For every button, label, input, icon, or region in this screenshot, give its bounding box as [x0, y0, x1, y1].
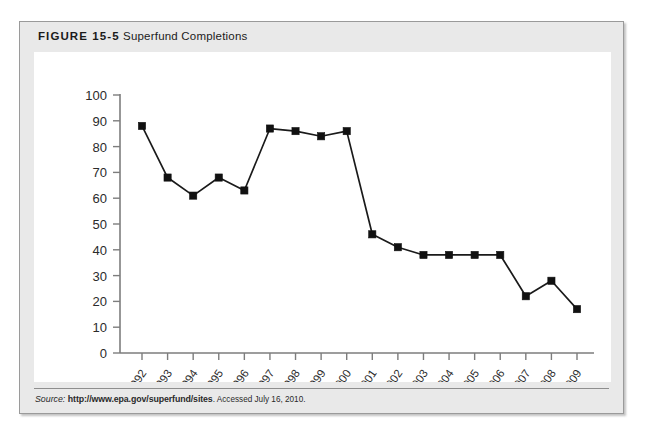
y-axis-tick-label: 80 [93, 140, 107, 155]
x-axis-tick-label: 1993 [150, 367, 175, 382]
x-axis-tick-label: 2006 [482, 367, 507, 382]
y-axis-tick-label: 10 [93, 320, 107, 335]
data-point-marker [343, 128, 350, 135]
x-axis-tick-label: 2009 [559, 367, 584, 382]
data-point-marker [548, 277, 555, 284]
x-axis-tick-label: 1999 [303, 367, 328, 382]
data-series-line [142, 126, 577, 309]
x-axis-tick-label: 2008 [534, 367, 559, 382]
figure-caption: FIGURE 15-5 Superfund Completions [38, 30, 247, 42]
x-axis-tick-label: 2005 [457, 367, 482, 382]
data-point-marker [190, 192, 197, 199]
data-point-marker [164, 174, 171, 181]
y-axis-tick-label: 40 [93, 243, 107, 258]
data-point-marker [573, 306, 580, 313]
x-axis-tick-label: 1998 [278, 367, 303, 382]
x-axis-tick-label: 2002 [380, 367, 405, 382]
y-axis-tick-label: 0 [100, 346, 107, 361]
data-point-marker [420, 251, 427, 258]
x-axis: 1992199319941995199619971998199920002001… [120, 353, 594, 382]
data-point-marker [215, 174, 222, 181]
x-axis-tick-label: 2007 [508, 367, 533, 382]
data-point-marker [241, 187, 248, 194]
superfund-completions-line-chart: 1009080706050403020100 19921993199419951… [34, 52, 611, 382]
data-point-marker [266, 125, 273, 132]
y-axis-tick-label: 70 [93, 165, 107, 180]
y-axis: 1009080706050403020100 [85, 88, 120, 361]
figure-number: FIGURE 15-5 [38, 30, 120, 42]
data-point-marker [138, 122, 145, 129]
y-axis-tick-label: 100 [85, 88, 107, 103]
x-axis-tick-label: 1992 [124, 367, 149, 382]
x-axis-tick-label: 2000 [329, 367, 354, 382]
source-note: Source: http://www.epa.gov/superfund/sit… [35, 394, 306, 404]
x-axis-tick-label: 1997 [252, 367, 277, 382]
footer-divider [34, 388, 609, 389]
y-axis-tick-label: 30 [93, 269, 107, 284]
data-point-marker [369, 231, 376, 238]
figure-header: FIGURE 15-5 Superfund Completions [20, 22, 623, 52]
data-point-markers [138, 122, 580, 312]
source-accessed: . Accessed July 16, 2010. [213, 395, 306, 404]
x-axis-tick-label: 1996 [226, 367, 251, 382]
y-axis-tick-label: 20 [93, 294, 107, 309]
y-axis-tick-label: 90 [93, 114, 107, 129]
data-point-marker [445, 251, 452, 258]
chart-plot-panel: 1009080706050403020100 19921993199419951… [34, 52, 611, 382]
figure-container: FIGURE 15-5 Superfund Completions 100908… [19, 21, 624, 414]
x-axis-tick-label: 2001 [354, 367, 379, 382]
data-point-marker [292, 128, 299, 135]
source-label: Source: [35, 394, 65, 404]
y-axis-tick-label: 60 [93, 191, 107, 206]
data-point-marker [497, 251, 504, 258]
data-point-marker [471, 251, 478, 258]
figure-title: Superfund Completions [123, 30, 247, 42]
x-axis-tick-label: 1994 [175, 367, 200, 382]
data-point-marker [522, 293, 529, 300]
source-url[interactable]: http://www.epa.gov/superfund/sites [68, 394, 213, 404]
x-axis-tick-label: 2004 [431, 367, 456, 382]
y-axis-tick-label: 50 [93, 217, 107, 232]
data-point-marker [318, 133, 325, 140]
x-axis-tick-label: 1995 [201, 367, 226, 382]
data-point-marker [394, 244, 401, 251]
x-axis-tick-label: 2003 [406, 367, 431, 382]
